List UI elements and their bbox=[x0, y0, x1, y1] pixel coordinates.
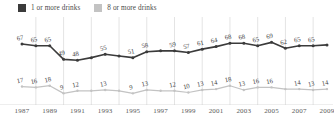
data-point bbox=[270, 41, 273, 44]
data-label: 68 bbox=[238, 32, 247, 40]
data-label: 16 bbox=[266, 77, 275, 85]
data-label: 48 bbox=[71, 49, 80, 57]
data-point bbox=[62, 58, 65, 61]
legend-item-1-or-more-drinks: 1 or more drinks bbox=[18, 4, 80, 12]
data-label: 59 bbox=[169, 40, 178, 48]
data-point bbox=[215, 45, 218, 48]
data-point bbox=[229, 85, 231, 87]
data-point bbox=[90, 56, 93, 59]
data-point bbox=[187, 51, 190, 54]
x-axis-tick-1997: 1997 bbox=[153, 106, 168, 116]
data-label: 14 bbox=[293, 78, 302, 86]
data-point bbox=[270, 86, 272, 88]
chart-legend: 1 or more drinks 8 or more drinks bbox=[18, 2, 157, 14]
legend-label-8-or-more-drinks: 8 or more drinks bbox=[107, 4, 156, 12]
data-point bbox=[146, 89, 148, 91]
data-label: 14 bbox=[321, 78, 330, 86]
x-axis-tick-1999: 1999 bbox=[181, 106, 196, 116]
data-label: 65 bbox=[307, 35, 316, 43]
data-point bbox=[159, 49, 162, 52]
data-point bbox=[159, 90, 161, 92]
data-point bbox=[173, 90, 175, 92]
x-axis-tick-1995: 1995 bbox=[126, 106, 141, 116]
data-label: 64 bbox=[210, 36, 219, 44]
data-label: 62 bbox=[279, 38, 287, 46]
data-point bbox=[48, 44, 51, 47]
data-label: 49 bbox=[58, 49, 67, 57]
data-point bbox=[256, 86, 258, 88]
data-point bbox=[34, 44, 37, 47]
data-label: 13 bbox=[196, 79, 205, 87]
data-label: 18 bbox=[224, 75, 233, 83]
x-axis-tick-2005: 2005 bbox=[264, 106, 279, 116]
data-label: 12 bbox=[71, 80, 79, 88]
data-point bbox=[35, 86, 37, 88]
data-point bbox=[298, 44, 301, 47]
data-label: 65 bbox=[30, 35, 39, 43]
data-point bbox=[118, 54, 121, 57]
data-label: 17 bbox=[16, 76, 25, 84]
data-label: 10 bbox=[182, 82, 191, 90]
data-label: 14 bbox=[210, 78, 219, 86]
data-label: 12 bbox=[169, 80, 177, 88]
data-point bbox=[21, 85, 23, 87]
data-point bbox=[145, 50, 148, 53]
data-point bbox=[284, 88, 286, 90]
data-point bbox=[201, 89, 203, 91]
x-axis-tick-1989: 1989 bbox=[42, 106, 57, 116]
legend-swatch-dark bbox=[18, 4, 26, 12]
data-point bbox=[104, 89, 106, 91]
data-point bbox=[201, 48, 204, 51]
data-label: 55 bbox=[99, 44, 108, 52]
data-label: 13 bbox=[141, 79, 150, 87]
data-point bbox=[49, 85, 51, 87]
data-label: 57 bbox=[182, 42, 191, 50]
data-point bbox=[326, 43, 329, 46]
data-point bbox=[76, 59, 79, 62]
x-axis-tick-2007: 2007 bbox=[292, 106, 307, 116]
data-point bbox=[187, 91, 189, 93]
data-label: 16 bbox=[252, 77, 261, 85]
data-point bbox=[228, 42, 231, 45]
data-point bbox=[131, 56, 134, 59]
series-dark: 67656549485551585957616468686569626565 bbox=[16, 32, 328, 62]
data-point bbox=[21, 43, 24, 46]
x-axis-tick-1993: 1993 bbox=[98, 106, 113, 116]
data-label: 16 bbox=[30, 77, 39, 85]
data-point bbox=[284, 47, 287, 50]
data-point bbox=[326, 88, 328, 90]
data-point bbox=[118, 90, 120, 92]
data-point bbox=[76, 90, 78, 92]
data-point bbox=[312, 44, 315, 47]
data-label: 13 bbox=[238, 79, 247, 87]
data-label: 18 bbox=[44, 75, 53, 83]
x-axis-tick-2009: 2009 bbox=[320, 106, 334, 116]
data-label: 58 bbox=[141, 41, 150, 49]
data-point bbox=[243, 89, 245, 91]
legend-swatch-light bbox=[94, 4, 102, 12]
data-point bbox=[62, 92, 64, 94]
data-point bbox=[90, 90, 92, 92]
x-axis: 1987198919911993199519971999200120032005… bbox=[0, 106, 333, 124]
plot-area: 1716189121391312101314181316161413146765… bbox=[0, 17, 333, 105]
data-label: 65 bbox=[44, 35, 53, 43]
data-label: 13 bbox=[307, 79, 316, 87]
data-label: 69 bbox=[266, 32, 275, 40]
data-point bbox=[215, 88, 217, 90]
data-label: 51 bbox=[127, 47, 135, 55]
data-point bbox=[173, 49, 176, 52]
data-label: 67 bbox=[16, 33, 25, 41]
data-point bbox=[242, 42, 245, 45]
data-label: 13 bbox=[99, 79, 108, 87]
series-light: 171618912139131210131418131616141314 bbox=[16, 75, 330, 95]
x-axis-tick-1991: 1991 bbox=[70, 106, 85, 116]
data-label: 9 bbox=[129, 83, 134, 91]
x-axis-tick-2001: 2001 bbox=[209, 106, 224, 116]
data-point bbox=[312, 89, 314, 91]
data-point bbox=[256, 44, 259, 47]
x-axis-tick-2003: 2003 bbox=[236, 106, 251, 116]
x-axis-tick-1987: 1987 bbox=[15, 106, 30, 116]
data-point bbox=[298, 88, 300, 90]
data-point bbox=[132, 92, 134, 94]
